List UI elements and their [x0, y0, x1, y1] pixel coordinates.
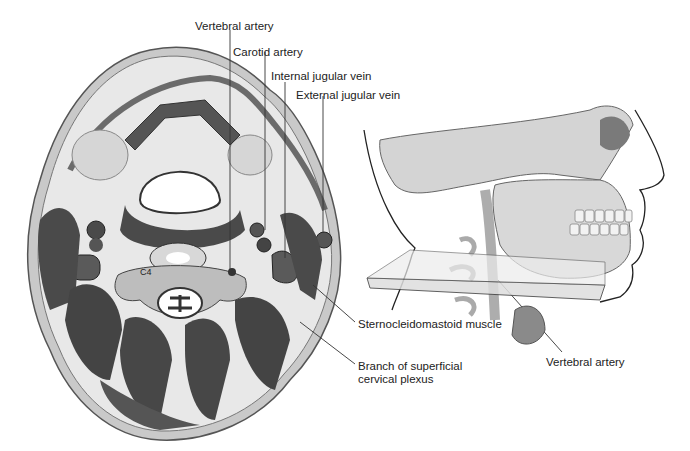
label-sternocleidomastoid-muscle: Sternocleidomastoid muscle	[358, 318, 502, 331]
neck-cross-section: C4	[28, 47, 341, 440]
label-external-jugular-vein: External jugular vein	[296, 89, 400, 102]
label-vertebral-artery-bottom: Vertebral artery	[546, 356, 625, 369]
vertebra-label: C4	[140, 267, 152, 277]
label-branch-superficial-line2: cervical plexus	[358, 373, 433, 386]
label-vertebral-artery-top: Vertebral artery	[195, 20, 274, 33]
label-branch-superficial-line1: Branch of superficial	[358, 360, 462, 373]
skull-lateral-view	[364, 106, 664, 344]
anatomy-illustration: C4	[0, 0, 690, 451]
label-carotid-artery: Carotid artery	[233, 46, 303, 59]
label-internal-jugular-vein: Internal jugular vein	[271, 70, 371, 83]
